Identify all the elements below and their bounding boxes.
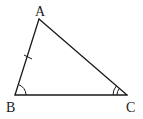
vertex-label-c: C bbox=[126, 100, 135, 115]
edge-ac bbox=[39, 19, 127, 95]
angle-arc-c-outer bbox=[113, 86, 116, 95]
vertex-label-b: B bbox=[6, 100, 15, 115]
triangle-diagram: A B C bbox=[0, 0, 143, 119]
angle-arc-b bbox=[18, 85, 26, 96]
angle-arc-c-inner bbox=[117, 88, 119, 95]
vertex-label-a: A bbox=[35, 4, 46, 19]
